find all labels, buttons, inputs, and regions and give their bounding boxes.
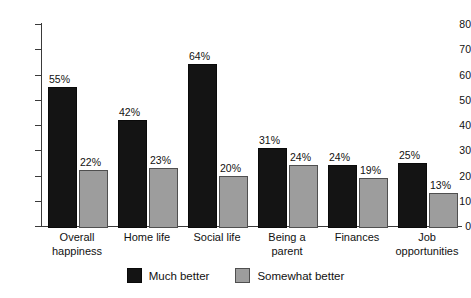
bar-value-label: 42% xyxy=(119,107,140,118)
legend-swatch-icon xyxy=(235,268,250,283)
y-axis-tick xyxy=(35,201,41,202)
y-axis-line xyxy=(41,23,42,227)
y-axis-tick-label: 40 xyxy=(441,120,471,130)
bar-somewhat-better xyxy=(149,168,178,228)
bar-value-label: 23% xyxy=(150,155,171,166)
y-axis-tick-label: 80 xyxy=(441,19,471,29)
y-axis-tick-label: 30 xyxy=(441,145,471,155)
legend-item[interactable]: Somewhat better xyxy=(235,268,344,283)
category-label-line1: Overall xyxy=(60,231,95,243)
legend-swatch-icon xyxy=(127,268,142,283)
bar-somewhat-better xyxy=(429,193,458,228)
legend-item[interactable]: Much better xyxy=(127,268,210,283)
category-label-line1: Being a xyxy=(268,231,305,243)
category-label-line2: parent xyxy=(243,245,331,259)
y-axis-tick-label: 70 xyxy=(441,44,471,54)
chart-legend: Much betterSomewhat better xyxy=(0,268,471,283)
bar-value-label: 64% xyxy=(189,51,210,62)
category-label-line2: happiness xyxy=(33,245,121,259)
bar-somewhat-better xyxy=(359,178,388,228)
bar-much-better xyxy=(258,148,287,228)
y-axis-tick xyxy=(35,176,41,177)
category-label-line1: Home life xyxy=(124,231,170,243)
bar-much-better xyxy=(398,163,427,228)
y-axis-tick xyxy=(35,100,41,101)
bar-somewhat-better xyxy=(219,176,248,229)
bar-value-label: 22% xyxy=(80,157,101,168)
y-axis-tick xyxy=(35,125,41,126)
legend-label: Somewhat better xyxy=(257,270,344,282)
bar-much-better xyxy=(48,87,77,228)
bar-value-label: 24% xyxy=(329,152,350,163)
category-label: Jobopportunities xyxy=(383,231,471,258)
y-axis-tick xyxy=(35,24,41,25)
bar-value-label: 55% xyxy=(49,74,70,85)
y-axis-tick xyxy=(35,49,41,50)
bar-chart: 01020304050607080 55%22%42%23%64%20%31%2… xyxy=(0,0,471,298)
bar-somewhat-better xyxy=(79,170,108,228)
bar-much-better xyxy=(328,165,357,228)
y-axis-tick xyxy=(35,75,41,76)
category-label-line1: Job xyxy=(418,231,436,243)
bar-much-better xyxy=(118,120,147,228)
y-axis-tick xyxy=(35,150,41,151)
y-axis-tick xyxy=(35,226,41,227)
y-axis-tick-label: 50 xyxy=(441,95,471,105)
legend-label: Much better xyxy=(149,270,210,282)
category-label-line2: opportunities xyxy=(383,245,471,259)
bar-value-label: 13% xyxy=(430,180,451,191)
bar-value-label: 19% xyxy=(360,165,381,176)
bar-value-label: 25% xyxy=(399,150,420,161)
category-label-line1: Social life xyxy=(193,231,240,243)
bar-value-label: 24% xyxy=(290,152,311,163)
category-label-line1: Finances xyxy=(335,231,380,243)
bar-value-label: 31% xyxy=(259,135,280,146)
bar-somewhat-better xyxy=(289,165,318,228)
bar-value-label: 20% xyxy=(220,163,241,174)
y-axis-tick-label: 60 xyxy=(441,70,471,80)
bar-much-better xyxy=(188,64,217,228)
